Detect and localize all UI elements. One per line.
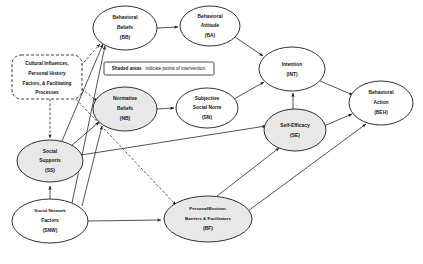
edge-snw-to-bf (88, 220, 161, 221)
node-beh-line1: Behavioral (368, 90, 394, 95)
diagram-canvas: Cultural Influences, Personal History Fa… (0, 0, 423, 264)
context-box-line3: Factors, & Facilitating (23, 81, 72, 86)
node-ba[interactable]: Behavioral Attitude (BA) (180, 6, 240, 46)
node-snw-line3: (SNW) (43, 228, 58, 233)
node-se-shape (264, 109, 326, 151)
node-ba-line3: (BA) (205, 33, 216, 38)
behavior-model-diagram: Cultural Influences, Personal History Fa… (0, 0, 423, 264)
legend-rest: indicate points of intervention. (145, 66, 206, 71)
node-bb-line3: (BB) (120, 35, 131, 40)
legend-emphasis: Shaded areas (112, 66, 142, 71)
node-bf-line3: (BF) (203, 226, 213, 231)
node-sn[interactable]: Subjective Social Norm (SN) (176, 88, 238, 128)
node-beh[interactable]: Behavioral Action (BEH) (349, 81, 413, 125)
context-box-line1: Cultural Influences, (25, 61, 69, 66)
node-snw-line1: Social Network (34, 208, 66, 213)
node-ss-line1: Social (43, 149, 58, 154)
node-bb-line1: Behavioral (112, 15, 138, 20)
node-se[interactable]: Self-Efficacy (SE) (264, 109, 326, 151)
node-sn-line1: Subjective (195, 96, 220, 101)
edge-bb-to-ba (157, 27, 178, 28)
legend-text-group: Shaded areas indicate points of interven… (112, 66, 206, 71)
node-nb[interactable]: Normative Beliefs (NB) (93, 87, 157, 131)
context-box-line2: Personal History (28, 71, 66, 76)
node-snw-line2: Factors (41, 218, 59, 223)
node-ba-line1: Behavioral (197, 14, 223, 19)
node-bb[interactable]: Behavioral Beliefs (BB) (93, 6, 157, 50)
node-snw[interactable]: Social Network Factors (SNW) (12, 199, 88, 243)
node-sn-line2: Social Norm (193, 105, 222, 110)
node-ss[interactable]: Social Supports (SS) (17, 140, 83, 182)
node-ss-line3: (SS) (45, 168, 55, 173)
edge-nb-to-sn (157, 108, 174, 109)
context-box-line4: Processes (35, 90, 59, 95)
node-int-line2: (INT) (286, 72, 298, 77)
node-bf-line2: Barriers & Facilitators (185, 216, 231, 221)
edge-ba-to-int (235, 37, 263, 56)
node-bf[interactable]: Personal/Environ. Barriers & Facilitator… (164, 196, 252, 242)
edge-int-to-beh (320, 81, 353, 95)
edge-snw-to-nb (82, 126, 102, 206)
node-ba-line2: Attitude (201, 23, 220, 28)
node-nb-line2: Beliefs (117, 106, 133, 111)
node-se-line2: (SE) (290, 133, 300, 138)
node-bb-line2: Beliefs (117, 25, 133, 30)
node-int-shape (259, 47, 325, 91)
edge-se-to-beh (324, 114, 352, 126)
edge-sn-to-int (234, 82, 264, 99)
node-ss-line2: Supports (39, 158, 61, 163)
legend-box: Shaded areas indicate points of interven… (104, 62, 214, 75)
context-box: Cultural Influences, Personal History Fa… (12, 55, 82, 99)
node-nb-line1: Normative (113, 96, 137, 101)
node-beh-line2: Action (373, 100, 388, 105)
node-int-line1: Intention (282, 62, 303, 67)
node-sn-line3: (SN) (202, 115, 212, 120)
edge-ss-to-se (81, 126, 266, 155)
node-nb-line3: (NB) (120, 116, 131, 121)
edge-bf-to-se (217, 148, 279, 196)
node-bf-line1: Personal/Environ. (189, 206, 226, 211)
node-se-line1: Self-Efficacy (280, 123, 310, 128)
node-beh-line3: (BEH) (374, 110, 388, 115)
node-int[interactable]: Intention (INT) (259, 47, 325, 91)
